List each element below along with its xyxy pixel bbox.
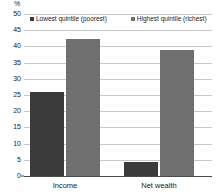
axis-baseline (24, 176, 212, 177)
legend-swatch-icon (131, 17, 135, 21)
chart-legend: Lowest quintile (poorest)Highest quintil… (30, 15, 207, 22)
legend-label: Highest quintile (richest) (137, 15, 207, 22)
y-axis-tick-label: 15 (13, 123, 21, 131)
y-axis-tick-label: 5 (17, 156, 21, 164)
bar (160, 50, 194, 176)
y-axis-tick-label: 45 (13, 26, 21, 34)
bars-layer (24, 14, 212, 176)
legend-item: Highest quintile (richest) (131, 15, 207, 22)
y-axis-tick-label: 35 (13, 59, 21, 67)
y-axis-tick-label: 10 (13, 140, 21, 148)
legend-item: Lowest quintile (poorest) (30, 15, 107, 22)
y-axis-tick-label: 50 (13, 10, 21, 18)
y-axis-tick-label: 40 (13, 42, 21, 50)
bar (124, 162, 158, 176)
x-axis-category-label: Net wealth (141, 181, 176, 190)
y-axis-unit-label: % (14, 0, 20, 8)
y-axis-tick-label: 25 (13, 91, 21, 99)
bar (66, 39, 100, 176)
legend-swatch-icon (30, 17, 34, 21)
legend-label: Lowest quintile (poorest) (36, 15, 107, 22)
x-axis-category-label: Income (53, 181, 78, 190)
plot-area: 50454035302520151050 (24, 14, 212, 176)
bar-chart: % 50454035302520151050 IncomeNet wealth … (0, 0, 218, 195)
bar (30, 92, 64, 176)
y-axis-tick-label: 30 (13, 75, 21, 83)
y-axis-tick-label: 20 (13, 107, 21, 115)
